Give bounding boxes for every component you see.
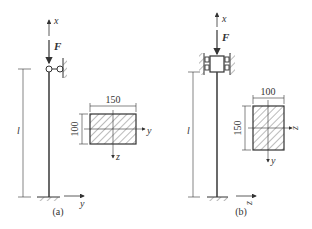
section-horizontal-axis-label-a: y	[146, 125, 152, 136]
section-width-label-b: 100	[261, 86, 276, 97]
length-label-a: l	[17, 125, 20, 136]
section-height-label-b: 150	[232, 121, 243, 136]
section-height-label-a: 100	[69, 122, 80, 137]
caption-b: (b)	[235, 206, 247, 218]
length-dimension-a: l	[17, 69, 31, 197]
caption-a: (a)	[52, 206, 63, 218]
x-axis-label-b: x	[221, 13, 227, 24]
force-label-a: F	[53, 40, 62, 52]
length-dimension-b: l	[187, 72, 200, 197]
base-axis-b: z	[236, 196, 256, 206]
fixed-base-a	[37, 197, 60, 201]
column-buckling-diagram: x F y l	[0, 0, 312, 229]
force-arrow-a: F	[49, 40, 62, 63]
cross-section-a: 150 100 y z	[69, 94, 152, 162]
section-width-label-a: 150	[106, 94, 121, 105]
guided-sleeve-support	[199, 53, 235, 75]
section-vertical-axis-label-b: y	[270, 155, 276, 166]
panel-a: x F y l	[17, 15, 152, 218]
panel-b: x F z l	[187, 13, 300, 218]
section-horizontal-axis-label-b: z	[289, 126, 300, 131]
fixed-base-b	[207, 197, 228, 201]
section-vertical-axis-label-a: z	[115, 151, 120, 162]
force-label-b: F	[221, 31, 230, 43]
base-axis-a: y	[64, 196, 85, 209]
x-axis-arrow-a: x	[49, 15, 59, 36]
base-axis-label-a: y	[79, 198, 85, 209]
x-axis-label-a: x	[53, 15, 59, 26]
force-arrow-b: F	[217, 30, 230, 54]
x-axis-arrow-b: x	[217, 13, 227, 27]
cross-section-b: 100 150 z y	[232, 86, 300, 166]
length-label-b: l	[187, 125, 190, 136]
